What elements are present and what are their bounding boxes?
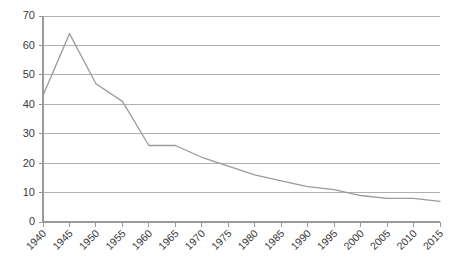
gridlines-group [43, 16, 440, 193]
x-axis-ticks-group [43, 222, 440, 227]
x-axis-tick-label: 2010 [394, 227, 419, 252]
x-axis-tick-label: 1975 [209, 227, 234, 252]
y-axis-tick-label: 20 [23, 157, 35, 169]
x-axis-tick-label: 1940 [23, 227, 48, 252]
data-series-line [43, 34, 440, 202]
y-axis-tick-label: 40 [23, 98, 35, 110]
y-axis-tick-label: 30 [23, 127, 35, 139]
line-chart: 010203040506070 194019451950195519601965… [0, 0, 467, 267]
x-axis-tick-label: 1970 [182, 227, 207, 252]
x-axis-tick-label: 1950 [76, 227, 101, 252]
x-axis-tick-label: 2000 [341, 227, 366, 252]
y-axis-tick-label: 0 [29, 215, 35, 227]
x-axis-tick-label: 1965 [156, 227, 181, 252]
y-axis-tick-label: 70 [23, 9, 35, 21]
x-axis-tick-label: 2005 [367, 227, 392, 252]
x-axis-tick-label: 2015 [420, 227, 445, 252]
x-axis-tick-label: 1990 [288, 227, 313, 252]
y-axis-tick-label: 10 [23, 186, 35, 198]
y-axis-tick-label: 50 [23, 68, 35, 80]
x-axis-tick-label: 1985 [262, 227, 287, 252]
x-axis-tick-label: 1995 [315, 227, 340, 252]
x-axis-tick-label: 1945 [50, 227, 75, 252]
x-axis-tick-label: 1955 [103, 227, 128, 252]
x-axis-tick-label: 1960 [129, 227, 154, 252]
x-axis-tick-label: 1980 [235, 227, 260, 252]
chart-container: 010203040506070 194019451950195519601965… [0, 0, 467, 267]
y-axis-labels-group: 010203040506070 [23, 9, 35, 227]
y-axis-tick-label: 60 [23, 39, 35, 51]
x-axis-labels-group: 1940194519501955196019651970197519801985… [23, 227, 445, 252]
